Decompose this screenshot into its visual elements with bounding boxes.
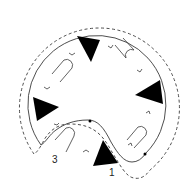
triangle-bottom [93, 140, 118, 166]
diagram-canvas [0, 0, 186, 187]
junction-dot [89, 120, 92, 123]
triangle-top [77, 36, 100, 62]
u-loop [55, 127, 75, 152]
label-1: 1 [109, 168, 115, 178]
triangle-right [135, 80, 163, 104]
junction-dot [144, 153, 147, 156]
chevron-marks [44, 45, 150, 152]
solid-contour [28, 36, 166, 162]
u-loop [127, 126, 147, 148]
triangle-left [33, 97, 59, 121]
u-loop [52, 59, 73, 82]
label-3: 3 [52, 155, 58, 165]
